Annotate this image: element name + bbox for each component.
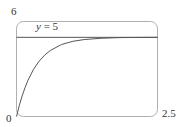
curve-line <box>17 37 158 116</box>
plot-frame <box>17 22 158 117</box>
plot-area <box>0 0 190 127</box>
